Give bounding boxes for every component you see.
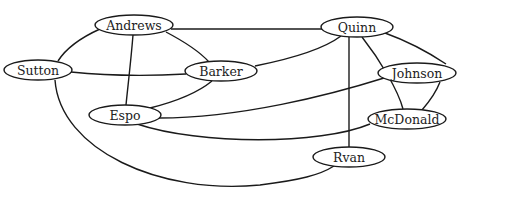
edge-andrews-sutton (58, 29, 100, 61)
node-mcdonald: McDonald (368, 109, 446, 129)
node-sutton: Sutton (4, 60, 72, 80)
edge-johnson-mcdonald (422, 82, 440, 110)
node-label: Sutton (17, 63, 59, 78)
edge-andrews-barker (166, 32, 209, 62)
edge-sutton-barker (71, 72, 186, 75)
node-espo: Espo (89, 105, 161, 125)
node-johnson: Johnson (378, 63, 456, 83)
node-label: Johnson (390, 66, 443, 81)
edge-andrews-espo (126, 35, 133, 105)
edge-espo-johnson (159, 78, 384, 118)
nodes-layer: AndrewsSuttonBarkerEspoQuinnJohnsonMcDon… (4, 15, 456, 167)
node-label: Andrews (105, 18, 162, 33)
node-quinn: Quinn (321, 17, 393, 37)
node-label: Quinn (338, 20, 376, 35)
edge-barker-espo (150, 81, 212, 108)
node-label: Barker (199, 64, 243, 79)
edge-sutton-rvan (55, 80, 334, 186)
edge-quinn-johnson (385, 33, 446, 64)
node-label: Rvan (333, 150, 365, 165)
node-label: McDonald (375, 112, 440, 127)
node-rvan: Rvan (313, 147, 385, 167)
edge-barker-quinn (255, 36, 341, 66)
graph-diagram: AndrewsSuttonBarkerEspoQuinnJohnsonMcDon… (0, 0, 510, 203)
node-label: Espo (109, 108, 140, 123)
edge-espo-mcdonald (137, 124, 370, 140)
node-barker: Barker (185, 61, 257, 81)
node-andrews: Andrews (95, 15, 173, 35)
